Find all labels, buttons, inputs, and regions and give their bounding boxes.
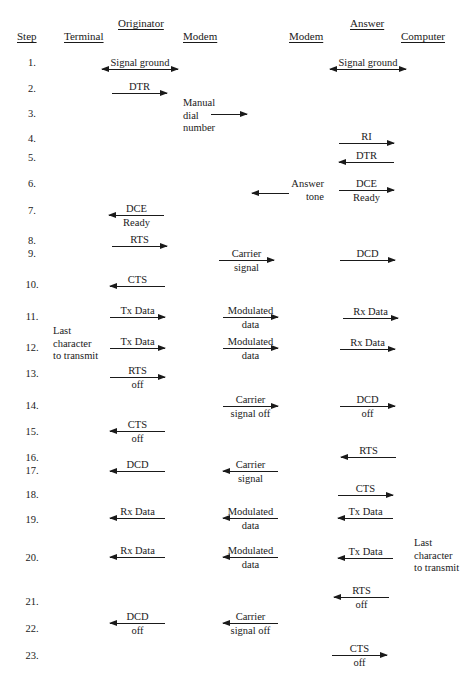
step-number: 14. [22, 400, 42, 411]
step-number: 10. [22, 279, 42, 290]
step-number: 12. [22, 342, 42, 353]
arrow-label-line: Tx Data [328, 546, 403, 559]
step-number: 19. [22, 514, 42, 525]
arrow-label-line: off [324, 599, 399, 612]
arrow-label-dcd-originator: DCD [100, 459, 175, 472]
arrow-label-line: DCE [99, 203, 174, 216]
arrow-label-dcd-answer: DCD [330, 248, 405, 261]
step-number: 2. [22, 83, 42, 94]
arrow-label-carrier-signal-back: Carriersignal [213, 459, 288, 485]
arrow-label-rts-off-answer: RTSoff [324, 585, 399, 611]
step-number: 15. [22, 426, 42, 437]
arrow-label-line: DCD [330, 248, 405, 261]
header-originator-modem: Modem [183, 30, 217, 42]
arrow-label-carrier-signal-off: Carriersignal off [213, 394, 288, 420]
arrow-label-carrier-signal: Carriersignal [209, 248, 284, 274]
arrow-label-line: DCE [329, 178, 404, 191]
arrow-dial-number [211, 110, 247, 119]
arrow-label-modulated-data-3: Modulateddata [213, 506, 288, 532]
arrow-label-line: off [100, 625, 175, 638]
note-last-character-originator: Lastcharacterto transmit [53, 325, 98, 363]
step-number: 22. [22, 623, 42, 634]
arrow-label-cts: CTS [100, 274, 175, 287]
arrow-label-signal-ground-answer: Signal ground [320, 57, 416, 70]
step-number: 16. [22, 452, 42, 463]
arrow-label-carrier-signal-off-back: Carriersignal off [213, 611, 288, 637]
arrow-label-dtr-answer: DTR [329, 150, 404, 163]
note-line: number [183, 122, 215, 135]
arrow-label-line: Carrier [213, 611, 288, 624]
header-answer: Answer [350, 17, 384, 29]
arrow-label-line: RTS [324, 585, 399, 598]
arrow-label-line: Rx Data [100, 506, 175, 519]
arrow-label-line: signal off [213, 625, 288, 638]
note-line: Manual [183, 97, 215, 110]
note-answer-tone: Answertone [290, 178, 324, 203]
step-number: 5. [22, 152, 42, 163]
header-terminal: Terminal [64, 30, 104, 42]
arrow-label-dce-ready-answer: DCEReady [329, 178, 404, 204]
arrow-label-dcd-off-originator: DCDoff [100, 611, 175, 637]
arrow-label-line: Signal ground [92, 57, 188, 70]
header-step: Step [17, 30, 37, 42]
arrow-label-line: data [213, 520, 288, 533]
step-number: 18. [22, 489, 42, 500]
note-line: tone [290, 191, 324, 204]
arrow-label-line: Tx Data [100, 305, 175, 318]
arrow-label-line: Rx Data [333, 306, 408, 319]
arrow-label-line: signal [213, 473, 288, 486]
step-number: 11. [22, 311, 42, 322]
arrow-label-line: Modulated [213, 506, 288, 519]
arrow-label-line: DCD [330, 394, 405, 407]
arrow-label-signal-ground-originator: Signal ground [92, 57, 188, 70]
arrow-label-rts-answer: RTS [331, 445, 406, 458]
note-line: to transmit [414, 562, 459, 575]
note-line: character [414, 550, 459, 563]
arrow-label-line: off [100, 433, 175, 446]
step-number: 23. [22, 650, 42, 661]
arrow-label-line: data [213, 350, 288, 363]
arrow-label-rx-data-1: Rx Data [333, 306, 408, 319]
arrow-label-line: DTR [329, 150, 404, 163]
arrow-label-rx-data-3: Rx Data [100, 506, 175, 519]
note-line: character [53, 338, 98, 351]
step-number: 17. [22, 465, 42, 476]
step-number: 4. [22, 133, 42, 144]
arrow-label-line: Ready [99, 217, 174, 230]
step-number: 20. [22, 552, 42, 563]
arrow-label-cts-off: CTSoff [100, 419, 175, 445]
header-originator: Originator [118, 17, 164, 29]
arrow-label-line: DTR [102, 81, 177, 94]
step-number: 21. [22, 596, 42, 607]
step-number: 1. [22, 57, 42, 68]
arrow-label-modulated-data-1: Modulateddata [213, 305, 288, 331]
arrow-label-line: Carrier [209, 248, 284, 261]
header-answer-modem: Modem [289, 30, 323, 42]
arrow-label-line: Signal ground [320, 57, 416, 70]
arrow-label-line: Tx Data [100, 336, 175, 349]
arrow-label-line: RI [329, 131, 404, 144]
arrow-label-line: RTS [331, 445, 406, 458]
arrow-answer-tone [252, 189, 289, 198]
arrow-label-line: off [100, 379, 175, 392]
arrow-label-line: Carrier [213, 459, 288, 472]
step-number: 9. [22, 248, 42, 259]
arrow-label-line: Modulated [213, 336, 288, 349]
arrow-label-modulated-data-4: Modulateddata [213, 545, 288, 571]
note-last-character-answer: Lastcharacterto transmit [414, 537, 459, 575]
arrow-label-cts-answer: CTS [328, 483, 403, 496]
note-line: Answer [290, 178, 324, 191]
arrow-label-line: signal [209, 262, 284, 275]
arrow-label-line: Modulated [213, 545, 288, 558]
arrow-label-dce-ready-originator: DCEReady [99, 203, 174, 229]
arrow-label-rts-off: RTSoff [100, 365, 175, 391]
arrow-label-line: DCD [100, 611, 175, 624]
arrow-label-line: Rx Data [330, 337, 405, 350]
arrow-label-modulated-data-2: Modulateddata [213, 336, 288, 362]
arrowhead-left-icon [251, 190, 259, 196]
arrow-label-cts-off-answer: CTSoff [322, 643, 397, 669]
arrow-label-line: RTS [100, 365, 175, 378]
arrow-label-line: data [213, 559, 288, 572]
arrow-label-line: Tx Data [328, 506, 403, 519]
note-line: Last [53, 325, 98, 338]
